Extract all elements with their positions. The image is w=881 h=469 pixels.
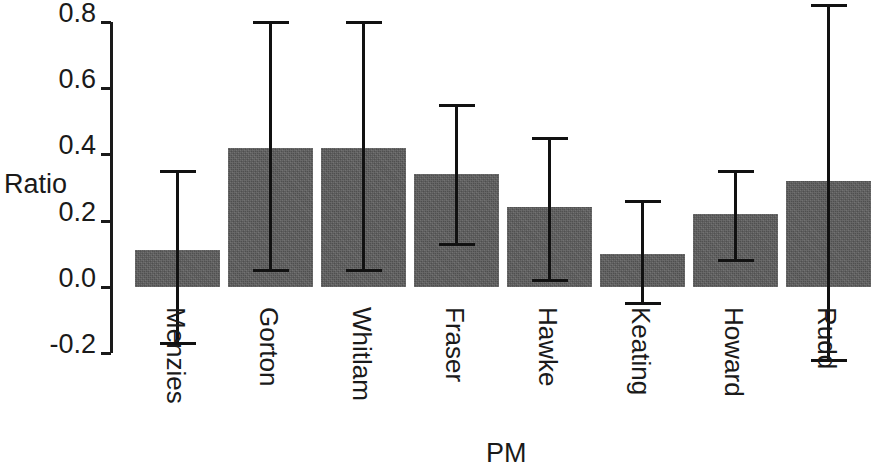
error-bar-cap-upper: [718, 170, 754, 173]
y-axis-spine: [110, 22, 113, 353]
bar-chart-figure: -0.20.00.20.40.60.8 Ratio MenziesGortonW…: [0, 0, 881, 469]
y-axis-title: Ratio: [4, 171, 67, 198]
y-axis-tick-mark: [101, 153, 111, 156]
y-axis-tick-mark: [101, 220, 111, 223]
error-bar-cap-upper: [811, 4, 847, 7]
error-bar-cap-upper: [346, 21, 382, 24]
x-axis-tick-label-whitlam: Whitlam: [349, 307, 375, 401]
error-bar-cap-upper: [532, 137, 568, 140]
y-axis-tick-label: -0.2: [0, 331, 96, 358]
x-axis-tick-label-rudd: Rudd: [814, 307, 840, 369]
y-axis-tick-mark: [101, 87, 111, 90]
x-axis-tick-label-fraser: Fraser: [442, 307, 468, 382]
error-bar-cap-upper: [625, 200, 661, 203]
error-bar-whisker: [362, 22, 365, 270]
error-bar-cap-lower: [439, 243, 475, 246]
y-axis-tick-mark: [101, 352, 111, 355]
x-axis-tick-label-menzies: Menzies: [163, 307, 189, 404]
error-bar-cap-lower: [718, 259, 754, 262]
error-bar-cap-upper: [160, 170, 196, 173]
error-bar-cap-lower: [625, 302, 661, 305]
error-bar-cap-upper: [439, 104, 475, 107]
y-axis-tick-mark: [101, 286, 111, 289]
error-bar-whisker: [455, 105, 458, 244]
x-axis-tick-label-hawke: Hawke: [535, 307, 561, 386]
error-bar-cap-upper: [253, 21, 289, 24]
y-axis-tick-label: 0.0: [0, 265, 96, 292]
x-axis-tick-label-howard: Howard: [721, 307, 747, 397]
y-axis-tick-label: 0.8: [0, 0, 96, 27]
x-axis-title: PM: [486, 440, 527, 467]
error-bar-whisker: [548, 138, 551, 280]
x-axis-tick-label-keating: Keating: [628, 307, 654, 395]
error-bar-cap-lower: [346, 269, 382, 272]
error-bar-cap-lower: [253, 269, 289, 272]
error-bar-whisker: [269, 22, 272, 270]
y-axis-tick-mark: [101, 21, 111, 24]
error-bar-cap-lower: [532, 279, 568, 282]
y-axis-tick-label: 0.6: [0, 66, 96, 93]
error-bar-whisker: [641, 201, 644, 304]
y-axis-tick-label: 0.2: [0, 199, 96, 226]
y-axis-tick-label: 0.4: [0, 132, 96, 159]
x-axis-tick-label-gorton: Gorton: [256, 307, 282, 387]
error-bar-whisker: [734, 171, 737, 260]
